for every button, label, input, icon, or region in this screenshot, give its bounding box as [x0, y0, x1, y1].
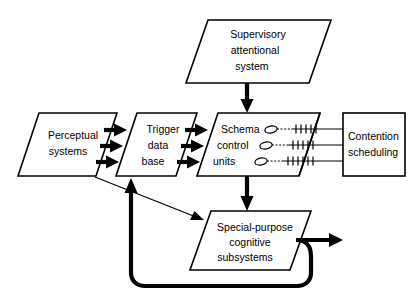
arrowhead-down-supervisory	[241, 99, 254, 113]
supervisory-attentional-system-line-1: Supervisory	[230, 28, 286, 40]
arrowhead-down-schema	[241, 196, 254, 211]
supervisory-attentional-system-line-2: attentional	[231, 44, 279, 56]
connector-perceptual-to-special	[95, 177, 204, 220]
contention-scheduling-shape	[343, 113, 405, 176]
trigger-data-base-line-3: base	[142, 155, 165, 167]
schema-control-units-line-3: units	[213, 155, 235, 167]
node-contention-scheduling[interactable]: Contention scheduling	[343, 113, 405, 176]
diagram-canvas: Supervisory attentional system Perceptua…	[0, 0, 415, 300]
diagram-svg: Supervisory attentional system Perceptua…	[0, 0, 415, 300]
connector-schema-to-special	[241, 176, 254, 211]
contention-scheduling-line-2: scheduling	[348, 146, 398, 158]
supervisory-attentional-system-line-3: system	[235, 60, 269, 72]
trigger-data-base-line-2: data	[148, 139, 169, 151]
special-purpose-line-2: cognitive	[229, 236, 271, 248]
arrowhead-right-output	[329, 233, 343, 247]
node-supervisory-attentional-system[interactable]: Supervisory attentional system	[186, 20, 331, 83]
schema-control-units-line-2: control	[217, 139, 249, 151]
connector-supervisory-to-schema	[241, 83, 254, 113]
arrowhead-up-feedback	[125, 178, 138, 193]
trigger-data-base-line-1: Trigger	[147, 123, 180, 135]
schema-control-units-line-1: Schema	[221, 123, 260, 135]
special-purpose-line-1: Special-purpose	[217, 221, 293, 233]
contention-scheduling-line-1: Contention	[348, 130, 399, 142]
special-purpose-line-3: subsystems	[217, 251, 272, 263]
perceptual-systems-line-2: systems	[49, 145, 88, 157]
perceptual-systems-line-1: Perceptual	[48, 129, 98, 141]
node-special-purpose-cognitive-subsystems[interactable]: Special-purpose cognitive subsystems	[190, 211, 311, 270]
